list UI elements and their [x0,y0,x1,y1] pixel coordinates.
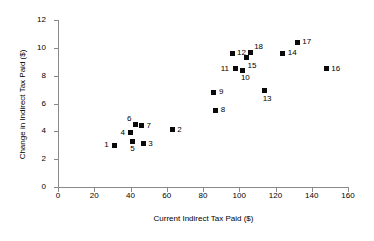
x-tick-label: 80 [188,192,218,200]
data-point-label: 7 [146,122,150,130]
data-point [112,143,117,148]
data-point [280,51,285,56]
data-point-label: 2 [177,126,181,134]
data-point-label: 11 [221,65,229,73]
x-tick-label: 60 [152,192,182,200]
data-point [295,40,300,45]
data-point [130,139,135,144]
x-tick-label: 0 [43,192,73,200]
y-tick [54,48,58,49]
x-tick-label: 100 [224,192,254,200]
data-point [262,88,267,93]
data-point [170,127,175,132]
y-tick [54,131,58,132]
x-tick-label: 160 [333,192,363,200]
y-tick [54,159,58,160]
data-point-label: 9 [219,88,223,96]
data-point-label: 5 [130,145,134,153]
x-axis-title: Current Indirect Tax Paid ($) [58,214,349,223]
data-point [230,51,235,56]
data-point [244,55,249,60]
data-point [139,123,144,128]
data-point-label: 18 [254,43,263,51]
data-point-label: 17 [302,38,311,46]
data-point [141,141,146,146]
data-point-label: 3 [148,140,152,148]
data-point [240,68,245,73]
data-point-label: 10 [241,74,250,82]
data-point-label: 4 [121,129,125,137]
data-point [133,122,138,127]
y-tick [54,20,58,21]
y-axis-line [58,20,59,188]
data-point [324,66,329,71]
data-point [128,130,133,135]
x-tick-label: 40 [116,192,146,200]
data-point-label: 8 [221,106,225,114]
data-point-label: 13 [263,95,272,103]
data-point [233,66,238,71]
data-point [248,50,253,55]
y-tick [54,76,58,77]
data-point-label: 14 [288,49,297,57]
scatter-chart: 024681012020406080100120140160 123456789… [0,0,374,241]
data-point-label: 6 [127,115,131,123]
y-axis-title: Change in Indirect Tax Paid ($) [18,21,27,189]
x-tick-label: 120 [261,192,291,200]
y-tick [54,104,58,105]
x-tick-label: 20 [79,192,109,200]
data-point [211,90,216,95]
data-point-label: 15 [248,62,257,70]
x-tick-label: 140 [297,192,327,200]
data-point [213,108,218,113]
data-point-label: 1 [104,141,108,149]
data-point-label: 16 [331,65,340,73]
